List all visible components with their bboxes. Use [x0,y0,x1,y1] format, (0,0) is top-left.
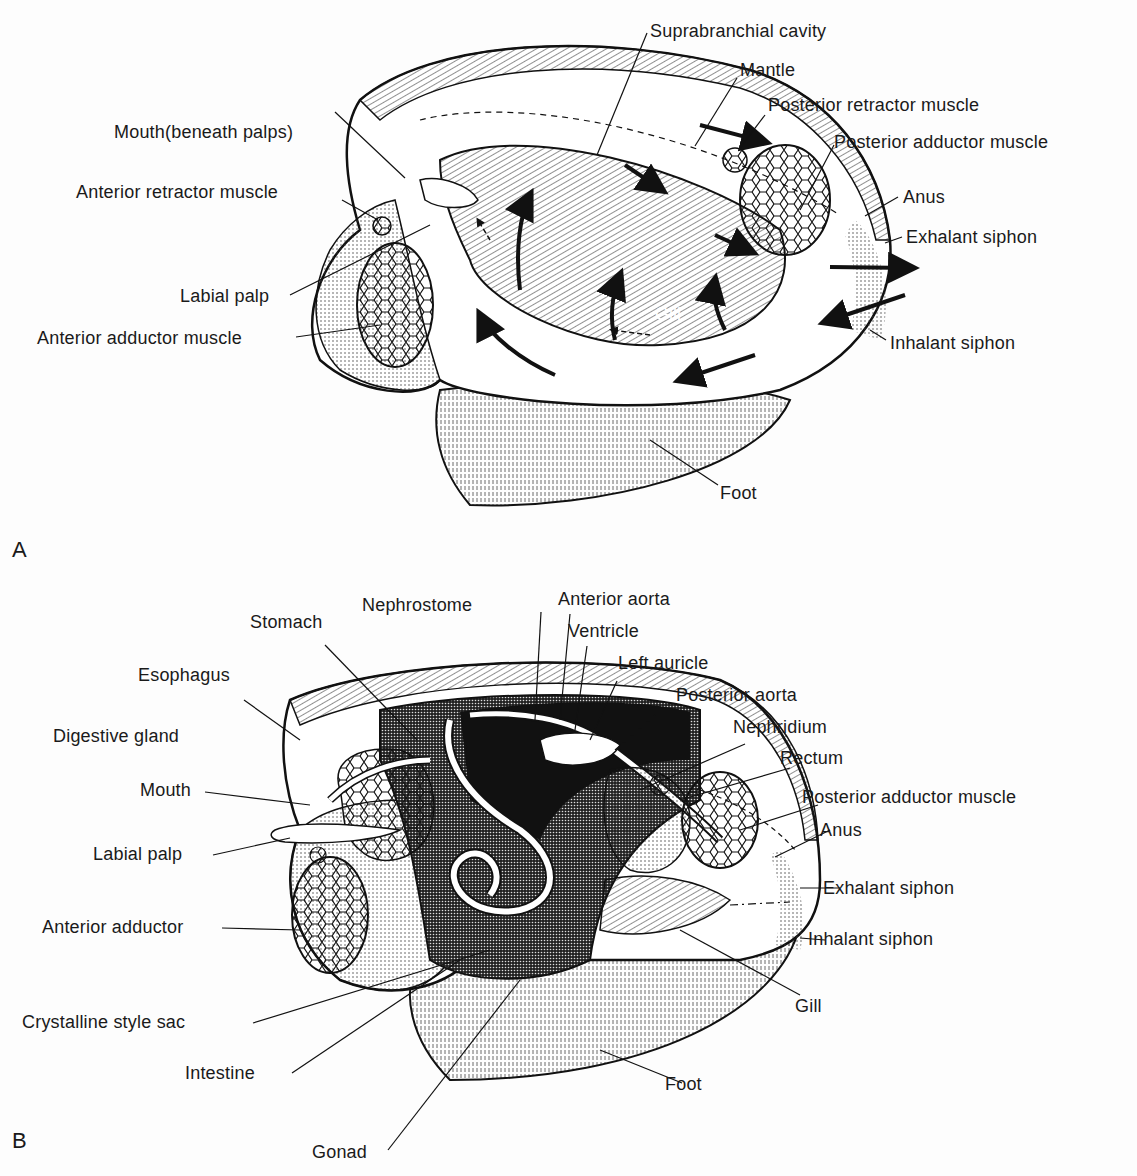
label-anterior-adductor-muscle: Anterior adductor muscle [37,329,242,347]
label-nephridium: Nephridium [733,718,827,736]
label-suprabranchial-cavity: Suprabranchial cavity [650,22,826,40]
label-posterior-adductor-muscle: Posterior adductor muscle [834,133,1048,151]
label-exhalant-siphon: Exhalant siphon [906,228,1037,246]
label-anus: Anus [903,188,945,206]
label-left-auricle: Left auricle [618,654,708,672]
label-posterior-aorta: Posterior aorta [676,686,797,704]
label-posterior-retractor-muscle: Posterior retractor muscle [768,96,979,114]
label-crystalline-style-sac: Crystalline style sac [22,1013,185,1031]
label-anterior-retractor-muscle: Anterior retractor muscle [76,183,278,201]
label-gill: Gill [655,304,681,325]
label-mouth: Mouth [140,781,191,799]
label-posterior-adductor-muscle-b: Posterior adductor muscle [802,788,1016,806]
label-anterior-aorta: Anterior aorta [558,590,670,608]
label-foot: Foot [720,484,757,502]
label-gill-b: Gill [795,997,822,1015]
label-ventricle: Ventricle [568,622,639,640]
label-anterior-adductor: Anterior adductor [42,918,183,936]
label-inhalant-siphon-b: Inhalant siphon [808,930,933,948]
label-exhalant-siphon-b: Exhalant siphon [823,879,954,897]
panel-letter-a: A [12,537,27,563]
clam-anatomy-illustration [0,0,1137,1176]
label-inhalant-siphon: Inhalant siphon [890,334,1015,352]
label-anus-b: Anus [820,821,862,839]
label-nephrostome: Nephrostome [362,596,472,614]
label-digestive-gland: Digestive gland [53,727,179,745]
label-labial-palp: Labial palp [180,287,269,305]
label-gonad: Gonad [312,1143,367,1161]
label-esophagus: Esophagus [138,666,230,684]
label-stomach: Stomach [250,613,322,631]
label-intestine: Intestine [185,1064,255,1082]
label-labial-palp-b: Labial palp [93,845,182,863]
label-mantle: Mantle [740,61,795,79]
label-mouth-beneath-palps: Mouth(beneath palps) [114,123,293,141]
panel-letter-b: B [12,1128,27,1154]
label-rectum: Rectum [780,749,843,767]
label-foot-b: Foot [665,1075,702,1093]
